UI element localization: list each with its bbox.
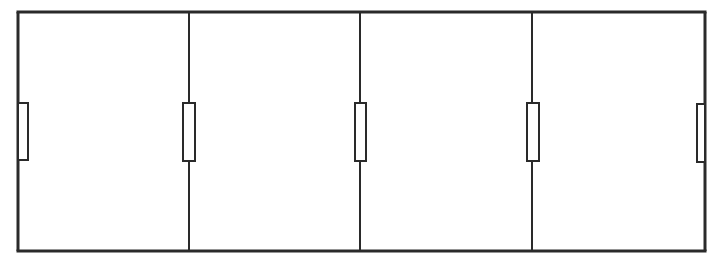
resistor-r3-icon: [355, 103, 366, 161]
resistor-r2-icon: [183, 103, 195, 161]
circuit-diagram: [0, 0, 723, 266]
parallel-resistor-circuit: [0, 0, 723, 266]
resistor-r4-icon: [527, 103, 539, 161]
resistor-r5-icon: [697, 104, 705, 162]
resistor-r1-icon: [18, 103, 28, 160]
